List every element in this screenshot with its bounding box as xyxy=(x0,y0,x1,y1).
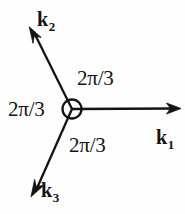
vector-label-k2-subscript: 2 xyxy=(49,19,56,34)
vector-label-k1-symbol: k xyxy=(156,126,167,148)
angle-label-k3-k1: 2π/3 xyxy=(69,135,106,156)
vector-label-k3-symbol: k xyxy=(41,179,52,201)
angle-label-k2-k3: 2π/3 xyxy=(8,99,45,120)
vector-diagram-figure: 2π/3 2π/3 2π/3 k1 k2 k3 xyxy=(0,0,185,214)
vector-k1-shaft xyxy=(72,109,176,110)
vector-label-k1-subscript: 1 xyxy=(168,137,175,152)
angle-label-k1-k2: 2π/3 xyxy=(77,68,114,89)
vector-label-k3-subscript: 3 xyxy=(53,190,60,205)
vector-label-k1: k1 xyxy=(156,127,174,147)
vector-k1-arrow xyxy=(72,103,181,114)
vector-label-k2: k2 xyxy=(37,9,55,29)
vector-label-k2-symbol: k xyxy=(37,8,48,30)
vector-label-k3: k3 xyxy=(41,180,59,200)
